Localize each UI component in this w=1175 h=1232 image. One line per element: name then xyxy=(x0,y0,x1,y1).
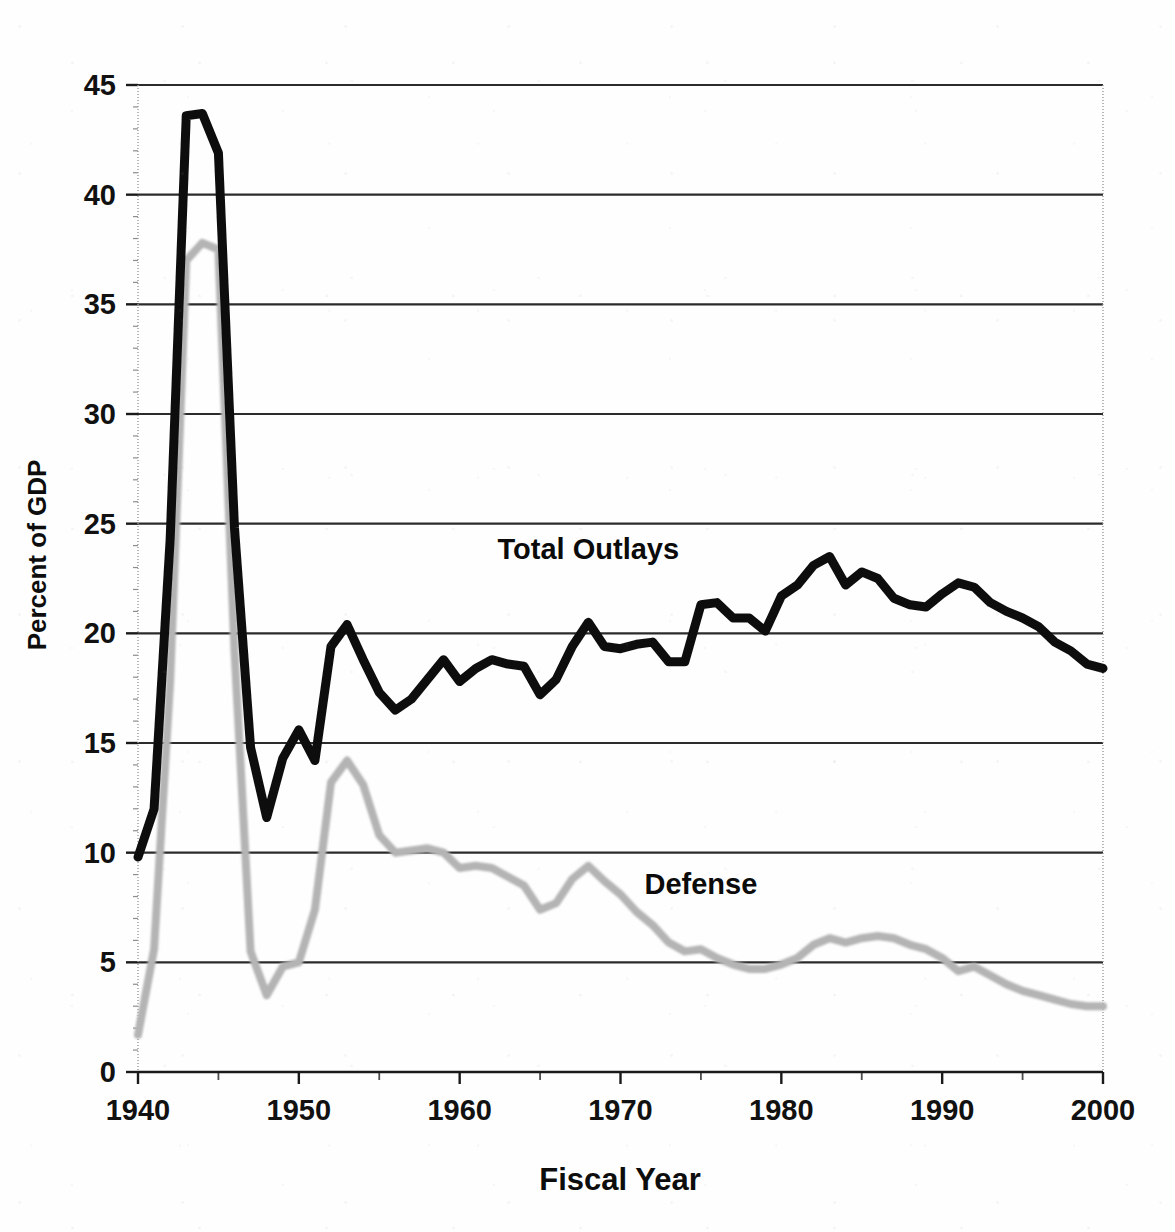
y-tick-marks xyxy=(126,85,138,1072)
x-tick-labels: 1940195019601970198019902000 xyxy=(106,1094,1136,1126)
y-tick-label: 25 xyxy=(84,508,116,540)
y-tick-label: 20 xyxy=(84,617,116,649)
x-tick-label: 1990 xyxy=(910,1094,975,1126)
series-label-total-outlays: Total Outlays xyxy=(498,533,680,565)
y-tick-label: 15 xyxy=(84,727,116,759)
series-label-defense: Defense xyxy=(645,868,758,900)
y-tick-label: 10 xyxy=(84,837,116,869)
x-tick-label: 1950 xyxy=(267,1094,332,1126)
y-tick-label: 45 xyxy=(84,69,116,101)
x-tick-label: 2000 xyxy=(1071,1094,1136,1126)
x-tick-label: 1980 xyxy=(749,1094,814,1126)
y-tick-labels: 051015202530354045 xyxy=(84,69,116,1088)
total-outlays-line xyxy=(138,114,1103,858)
x-axis-title: Fiscal Year xyxy=(539,1162,700,1197)
x-tick-label: 1960 xyxy=(427,1094,492,1126)
y-tick-label: 30 xyxy=(84,398,116,430)
defense-line xyxy=(138,243,1103,1035)
x-tick-label: 1970 xyxy=(588,1094,653,1126)
x-tick-label: 1940 xyxy=(106,1094,171,1126)
y-axis-title: Percent of GDP xyxy=(22,460,52,651)
chart-container: 051015202530354045 194019501960197019801… xyxy=(0,0,1175,1232)
y-tick-label: 5 xyxy=(100,946,116,978)
y-tick-label: 35 xyxy=(84,288,116,320)
y-tick-label: 0 xyxy=(100,1056,116,1088)
y-tick-label: 40 xyxy=(84,179,116,211)
outlays-gdp-line-chart: 051015202530354045 194019501960197019801… xyxy=(0,0,1175,1232)
x-tick-marks xyxy=(138,1072,1103,1084)
